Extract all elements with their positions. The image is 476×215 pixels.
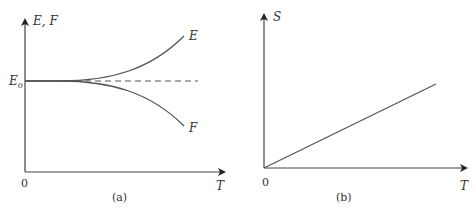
e0-label-subscript: 0 [18, 81, 23, 90]
panel-b-y-axis-label: S [273, 10, 281, 24]
e0-label: E0 [8, 74, 23, 90]
panel-b-origin-label: 0 [262, 176, 269, 189]
panel-a-origin-label: 0 [21, 177, 28, 190]
panel-a-y-axis-label: E, F [32, 14, 58, 28]
panel-b-caption: (b) [336, 191, 352, 204]
figure: E, F E0 E F 0 T (a) S 0 T (b) [0, 0, 476, 215]
panel-b-x-axis-label: T [460, 179, 469, 193]
curve-e [25, 36, 184, 81]
line-s [264, 84, 436, 168]
panel-a-caption: (a) [112, 191, 127, 204]
e0-label-main: E [8, 74, 18, 88]
curve-e-label: E [188, 29, 198, 43]
panel-b: S 0 T (b) [262, 10, 469, 204]
panel-a: E, F E0 E F 0 T (a) [8, 14, 225, 204]
curve-f-label: F [188, 121, 198, 135]
curve-f [25, 81, 184, 126]
panel-a-x-axis-label: T [216, 179, 225, 193]
